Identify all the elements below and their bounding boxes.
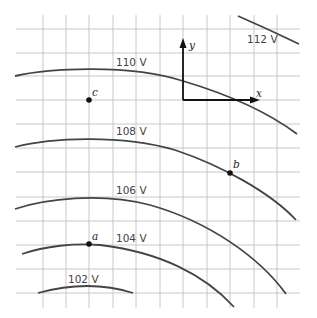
x-axis-label: x — [256, 87, 262, 99]
point-b-label: b — [233, 158, 240, 170]
point-c — [86, 97, 92, 103]
label-110v: 110 V — [116, 56, 147, 68]
y-axis-arrowhead-icon — [180, 38, 187, 48]
equipotential-104v — [22, 244, 234, 307]
point-c-label: c — [92, 86, 98, 98]
point-b — [227, 170, 233, 176]
grid — [16, 15, 300, 308]
y-axis-label: y — [188, 39, 196, 51]
label-112v: 112 V — [247, 33, 278, 45]
equipotential-diagram: 110 V 108 V 106 V 104 V 102 V 112 V y x … — [0, 0, 317, 318]
point-a — [86, 241, 92, 247]
label-104v: 104 V — [116, 232, 147, 244]
label-108v: 108 V — [116, 125, 147, 137]
label-106v: 106 V — [116, 184, 147, 196]
point-a-label: a — [92, 230, 98, 242]
label-102v: 102 V — [68, 273, 99, 285]
equipotential-102v — [38, 286, 133, 293]
